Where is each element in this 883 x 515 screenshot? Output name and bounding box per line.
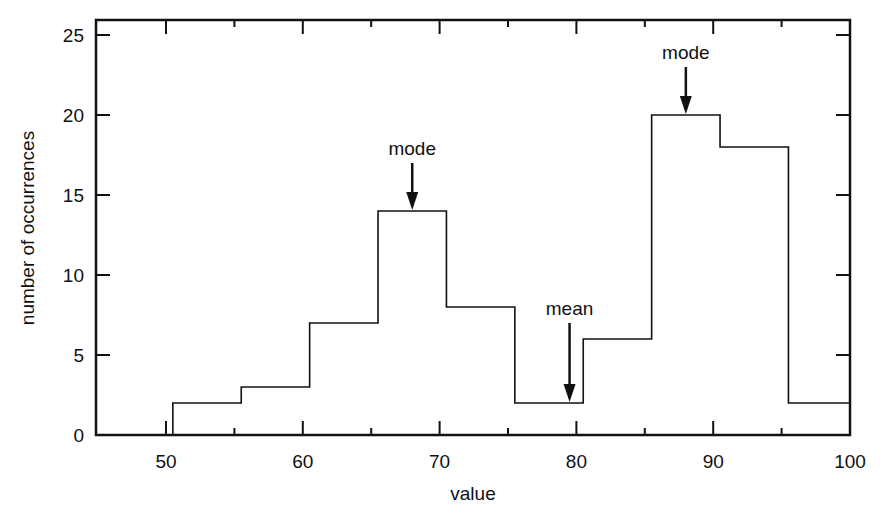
histogram-outline xyxy=(173,115,850,435)
mode-label: mode xyxy=(662,42,710,63)
y-tick-label: 0 xyxy=(73,425,84,446)
x-tick-label: 80 xyxy=(566,451,587,472)
annotations: modemeanmode xyxy=(388,42,709,402)
y-tick-label: 25 xyxy=(63,25,84,46)
y-axis-label: number of occurrences xyxy=(17,131,38,325)
plot-frame xyxy=(96,20,850,435)
arrow-down-icon xyxy=(564,384,576,402)
mode-label: mode xyxy=(388,138,436,159)
y-tick-label: 5 xyxy=(73,345,84,366)
arrow-down-icon xyxy=(680,96,692,114)
x-tick-label: 100 xyxy=(834,451,866,472)
arrow-down-icon xyxy=(406,192,418,210)
y-tick-label: 10 xyxy=(63,265,84,286)
x-tick-label: 90 xyxy=(703,451,724,472)
histogram-chart: 0510152025 5060708090100 modemeanmode va… xyxy=(0,0,883,515)
x-tick-label: 70 xyxy=(429,451,450,472)
y-tick-label: 15 xyxy=(63,185,84,206)
histogram-steps xyxy=(173,115,850,435)
x-axis-label: value xyxy=(450,483,495,504)
y-tick-label: 20 xyxy=(63,105,84,126)
x-tick-label: 50 xyxy=(155,451,176,472)
x-axis-ticks: 5060708090100 xyxy=(155,20,865,472)
x-tick-label: 60 xyxy=(292,451,313,472)
y-axis-ticks: 0510152025 xyxy=(63,25,850,446)
mean-label: mean xyxy=(546,298,594,319)
